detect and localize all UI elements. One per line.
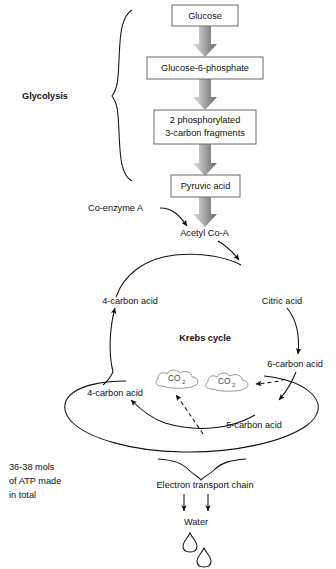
flow-arrow-g6p-to-fragments [193, 79, 217, 110]
co2-right-formula: CO [218, 376, 231, 386]
flow-arrow-pyruvic-to-acetyl [193, 197, 217, 227]
co2-left-formula: CO [168, 373, 181, 383]
coenzyme-a-label: Co-enzyme A [88, 203, 144, 213]
water-droplet-upper [183, 533, 197, 552]
box-glucose-6-phosphate[interactable]: Glucose-6-phosphate [147, 57, 263, 79]
arrow-coenzyme-a-to-acetyl [160, 208, 187, 226]
co2-cloud-left: CO 2 [156, 370, 198, 388]
flow-arrow-glucose-to-g6p [193, 26, 217, 57]
box-phosphorylated-fragments[interactable]: 2 phosphorylated 3-carbon fragments [154, 110, 256, 144]
atp-note-line1: 36-38 mols [9, 462, 55, 472]
atp-note-line3: in total [9, 490, 36, 500]
box-fragments-line2: 3-carbon fragments [165, 128, 245, 138]
krebs-arc-left-branch [103, 372, 113, 385]
acetyl-coa-label: Acetyl Co-A [180, 228, 229, 238]
box-glucose[interactable]: Glucose [172, 5, 238, 26]
label-4-carbon-acid-upper: 4-carbon acid [102, 296, 158, 306]
glycolysis-bracket [112, 10, 132, 181]
co2-cloud-right: CO 2 [206, 373, 248, 391]
box-glucose-6-phosphate-label: Glucose-6-phosphate [161, 63, 249, 73]
box-glucose-label: Glucose [188, 11, 222, 21]
respiration-diagram: Glycolysis Glucose Glucose-6-phosphate 2… [0, 0, 336, 569]
glycolysis-bracket-label: Glycolysis [22, 91, 68, 101]
flow-arrow-fragments-to-pyruvic [193, 144, 217, 176]
krebs-arc-top [116, 254, 241, 297]
diagram-canvas: Glycolysis Glucose Glucose-6-phosphate 2… [0, 0, 336, 569]
dashed-arrow-to-co2-right [256, 379, 285, 384]
atp-note-line2: of ATP made [9, 476, 61, 486]
box-pyruvic-acid-label: Pyruvic acid [181, 181, 231, 191]
krebs-arc-citric-to-6carbon [287, 308, 299, 354]
label-citric-acid: Citric acid [262, 296, 302, 306]
label-5-carbon-acid: 5-carbon acid [226, 420, 282, 430]
box-fragments-line1: 2 phosphorylated [170, 115, 241, 125]
label-electron-transport-chain: Electron transport chain [156, 480, 253, 490]
etc-brace [158, 459, 246, 480]
label-water: Water [184, 517, 208, 527]
box-pyruvic-acid[interactable]: Pyruvic acid [171, 175, 240, 197]
label-4-carbon-acid-lower: 4-carbon acid [87, 388, 143, 398]
water-droplet-lower [197, 548, 211, 567]
label-krebs-cycle: Krebs cycle [179, 333, 231, 343]
krebs-arc-left-up [110, 308, 115, 372]
arrow-6carbon-to-5carbon [279, 372, 296, 400]
arrow-acetyl-to-cycle [218, 241, 239, 260]
label-6-carbon-acid: 6-carbon acid [267, 359, 323, 369]
